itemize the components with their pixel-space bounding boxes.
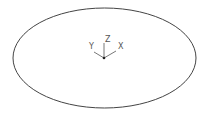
z-axis-label: Z — [105, 36, 110, 44]
drawing-canvas — [0, 0, 203, 115]
ucs-origin-marker — [103, 57, 106, 60]
x-axis-line — [104, 51, 116, 58]
ucs-icon — [94, 43, 116, 59]
x-axis-label: X — [118, 43, 123, 51]
y-axis-line — [94, 52, 104, 58]
y-axis-label: Y — [89, 43, 94, 51]
